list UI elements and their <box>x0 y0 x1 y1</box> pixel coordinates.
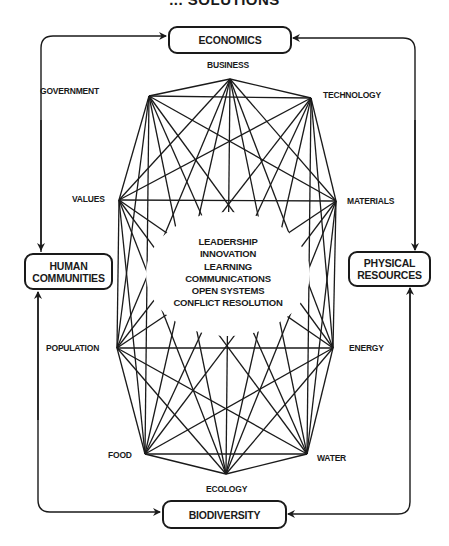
edge-food-values <box>119 200 145 454</box>
biodiversity-label: BIODIVERSITY <box>189 509 261 521</box>
edge-business-government <box>149 79 230 96</box>
center-item: LEARNING <box>148 261 308 273</box>
node-label-energy: ENERGY <box>349 343 384 353</box>
center-item: LEADERSHIP <box>148 236 308 248</box>
human-communities-box: HUMAN COMMUNITIES <box>24 253 113 290</box>
edge-technology-energy <box>311 98 333 348</box>
node-label-food: FOOD <box>108 450 132 460</box>
center-item: CONFLICT RESOLUTION <box>148 297 308 309</box>
human-communities-label-1: HUMAN <box>49 260 87 272</box>
center-item: COMMUNICATIONS <box>148 273 308 285</box>
node-label-population: POPULATION <box>46 343 99 353</box>
economics-box: ECONOMICS <box>168 26 292 54</box>
center-item: OPEN SYSTEMS <box>148 285 308 297</box>
edge-business-technology <box>230 79 311 98</box>
edge-water-ecology <box>226 454 307 474</box>
node-label-values: VALUES <box>72 194 105 204</box>
node-label-water: WATER <box>317 453 346 463</box>
node-label-business: BUSINESS <box>207 60 249 70</box>
edge-technology-materials <box>311 98 336 201</box>
node-label-technology: TECHNOLOGY <box>323 90 381 100</box>
arrow-human-to-biodiversity <box>38 292 160 512</box>
physical-resources-label-1: PHYSICAL <box>364 257 416 269</box>
economics-label: ECONOMICS <box>199 34 262 46</box>
node-label-materials: MATERIALS <box>347 196 394 206</box>
center-item: INNOVATION <box>148 248 308 260</box>
physical-resources-box: PHYSICAL RESOURCES <box>348 251 431 287</box>
node-label-ecology: ECOLOGY <box>206 484 247 494</box>
node-label-government: GOVERNMENT <box>40 86 99 96</box>
diagram-canvas: ... SOLUTIONS ECONOMICS HUMAN COMM <box>0 0 449 546</box>
edge-materials-values <box>119 200 336 201</box>
biodiversity-box: BIODIVERSITY <box>162 500 287 529</box>
center-competencies: LEADERSHIP INNOVATION LEARNING COMMUNICA… <box>148 236 308 310</box>
arrow-physical-to-biodiversity <box>288 288 410 514</box>
edge-energy-food <box>145 348 333 454</box>
edge-population-values <box>117 200 119 348</box>
edge-ecology-food <box>145 454 226 474</box>
physical-resources-label-2: RESOURCES <box>357 269 422 281</box>
human-communities-label-2: COMMUNITIES <box>32 272 104 284</box>
